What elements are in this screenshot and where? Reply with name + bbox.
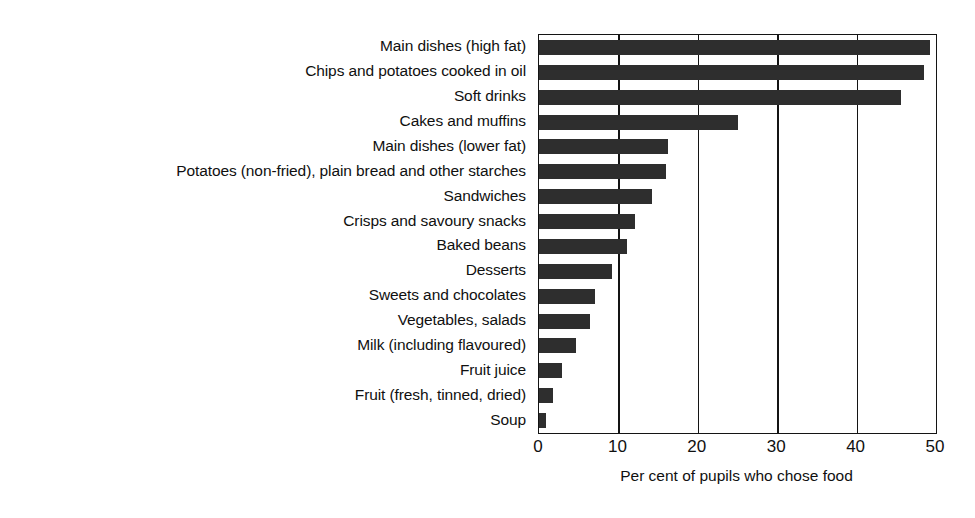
- bar: [539, 264, 612, 279]
- bar-series: [539, 35, 936, 433]
- bar: [539, 388, 553, 403]
- category-label: Vegetables, salads: [398, 312, 526, 328]
- category-label: Main dishes (high fat): [380, 38, 526, 54]
- bar: [539, 189, 652, 204]
- x-tick-label: 50: [926, 437, 945, 457]
- category-label: Soup: [490, 412, 526, 428]
- bar: [539, 214, 635, 229]
- plot-area: [538, 34, 937, 434]
- x-axis-tick-labels: 01020304050: [538, 437, 935, 463]
- bar: [539, 413, 546, 428]
- bar: [539, 338, 576, 353]
- x-tick-label: 40: [846, 437, 865, 457]
- bar: [539, 289, 595, 304]
- bar: [539, 115, 738, 130]
- category-label: Chips and potatoes cooked in oil: [305, 63, 526, 79]
- category-label: Main dishes (lower fat): [372, 138, 526, 154]
- category-label: Milk (including flavoured): [357, 337, 526, 353]
- bar-chart: Main dishes (high fat)Chips and potatoes…: [0, 0, 975, 518]
- bar: [539, 314, 590, 329]
- bar: [539, 90, 901, 105]
- category-label: Potatoes (non-fried), plain bread and ot…: [176, 163, 526, 179]
- x-tick-label: 30: [767, 437, 786, 457]
- x-tick-label: 0: [533, 437, 542, 457]
- category-label: Baked beans: [437, 237, 526, 253]
- x-axis-title: Per cent of pupils who chose food: [538, 467, 935, 485]
- category-label: Fruit (fresh, tinned, dried): [355, 387, 526, 403]
- category-label: Soft drinks: [454, 88, 526, 104]
- category-label: Sandwiches: [443, 188, 526, 204]
- bar: [539, 65, 924, 80]
- bar: [539, 139, 668, 154]
- category-label: Cakes and muffins: [400, 113, 526, 129]
- bar: [539, 239, 627, 254]
- category-label: Desserts: [466, 262, 526, 278]
- bar: [539, 40, 930, 55]
- category-axis-labels: Main dishes (high fat)Chips and potatoes…: [0, 34, 533, 432]
- bar: [539, 164, 666, 179]
- category-label: Crisps and savoury snacks: [343, 213, 526, 229]
- bar: [539, 363, 562, 378]
- category-label: Fruit juice: [460, 362, 526, 378]
- category-label: Sweets and chocolates: [369, 287, 526, 303]
- x-tick-label: 20: [687, 437, 706, 457]
- x-tick-label: 10: [608, 437, 627, 457]
